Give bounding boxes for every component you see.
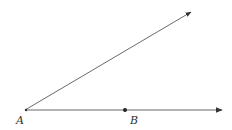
label-b: B [129,114,138,127]
point-b [123,108,127,112]
vertex-a-point [25,109,27,111]
angle-diagram: A B [0,0,232,130]
upper-ray [25,12,191,110]
label-a: A [15,114,24,127]
